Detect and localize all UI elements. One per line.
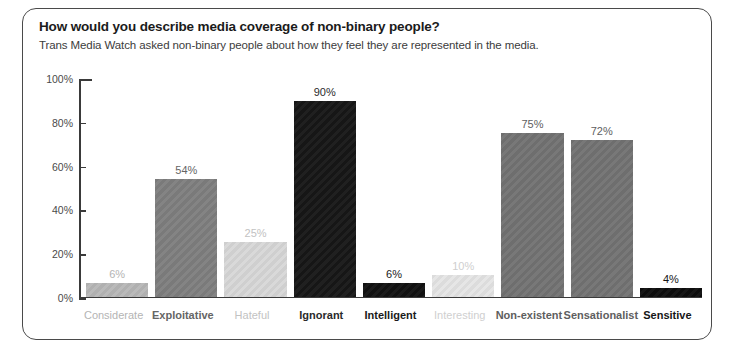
y-axis-tick-label: 20% bbox=[52, 248, 73, 260]
x-axis-line bbox=[79, 297, 702, 299]
bar bbox=[571, 140, 633, 297]
bar-value-label: 6% bbox=[363, 268, 425, 280]
bar bbox=[501, 133, 563, 296]
x-axis-category-label: Non-existent bbox=[494, 309, 563, 321]
y-axis-tick-label: 40% bbox=[52, 204, 73, 216]
bar-value-label: 72% bbox=[571, 125, 633, 137]
bar-value-label: 75% bbox=[501, 118, 563, 130]
bar-value-label: 4% bbox=[640, 273, 702, 285]
bar-value-label: 25% bbox=[224, 227, 286, 239]
bar bbox=[86, 283, 148, 296]
y-axis-tick-label: 80% bbox=[52, 117, 73, 129]
bar bbox=[640, 288, 702, 297]
x-axis-category-label: Hateful bbox=[217, 309, 286, 321]
y-axis-tick-label: 0% bbox=[58, 292, 73, 304]
x-axis-category-label: Intelligent bbox=[356, 309, 425, 321]
bar-group: 54% bbox=[155, 79, 217, 297]
bar-group: 25% bbox=[224, 79, 286, 297]
bar bbox=[363, 283, 425, 296]
page-title: How would you describe media coverage of… bbox=[39, 19, 440, 34]
bar-value-label: 6% bbox=[86, 268, 148, 280]
chart-screenshot: How would you describe media coverage of… bbox=[0, 0, 735, 353]
bar-group: 4% bbox=[640, 79, 702, 297]
bar-group: 6% bbox=[86, 79, 148, 297]
y-axis-tick-label: 100% bbox=[46, 73, 73, 85]
x-axis-category-label: Interesting bbox=[425, 309, 494, 321]
bar-value-label: 10% bbox=[432, 260, 494, 272]
plot-area: 0%20%40%60%80%100% 6%54%25%90%6%10%75%72… bbox=[79, 79, 702, 298]
x-axis-category-label: Sensationalist bbox=[564, 309, 633, 321]
y-axis-tick-mark bbox=[79, 298, 86, 300]
bar-group: 75% bbox=[501, 79, 563, 297]
bar-group: 72% bbox=[571, 79, 633, 297]
bar-series: 6%54%25%90%6%10%75%72%4% bbox=[81, 79, 703, 297]
x-axis-category-label: Exploitative bbox=[148, 309, 217, 321]
x-axis-category-label: Sensitive bbox=[633, 309, 702, 321]
x-axis-category-labels: ConsiderateExploitativeHatefulIgnorantIn… bbox=[79, 305, 702, 327]
chart-subtitle: Trans Media Watch asked non-binary peopl… bbox=[39, 39, 539, 51]
x-axis-category-label: Considerate bbox=[79, 309, 148, 321]
bar-group: 6% bbox=[363, 79, 425, 297]
bar-value-label: 90% bbox=[294, 86, 356, 98]
bar-group: 90% bbox=[294, 79, 356, 297]
chart-card: How would you describe media coverage of… bbox=[22, 8, 712, 340]
bar-value-label: 54% bbox=[155, 164, 217, 176]
bar bbox=[432, 275, 494, 297]
bar bbox=[155, 179, 217, 296]
bar bbox=[224, 242, 286, 296]
bar bbox=[294, 101, 356, 297]
x-axis-category-label: Ignorant bbox=[287, 309, 356, 321]
bar-group: 10% bbox=[432, 79, 494, 297]
y-axis-tick-label: 60% bbox=[52, 161, 73, 173]
